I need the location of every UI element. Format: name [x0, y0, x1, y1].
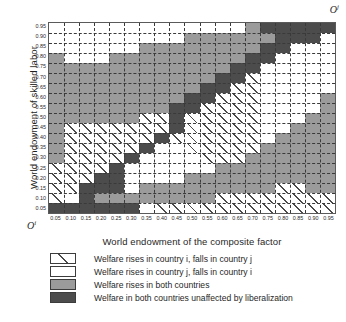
heatmap-cell [154, 63, 169, 73]
heatmap-cell [109, 133, 124, 143]
heatmap-cell [260, 163, 275, 173]
heatmap-cell [320, 133, 335, 143]
heatmap-cell [109, 113, 124, 123]
heatmap-cell [184, 113, 199, 123]
heatmap-cell [169, 193, 184, 203]
heatmap-cell [320, 103, 335, 113]
heatmap-cell [124, 193, 139, 203]
heatmap-cell [49, 173, 64, 183]
heatmap-cell [109, 33, 124, 43]
heatmap-cell [109, 83, 124, 93]
heatmap-cell [154, 113, 169, 123]
heatmap-cell [64, 113, 79, 123]
heatmap-cell [124, 113, 139, 123]
heatmap-cell [169, 103, 184, 113]
heatmap-cell [94, 133, 109, 143]
y-tick-label: 0.35 [20, 145, 46, 150]
legend-item: Welfare rises in both countries [50, 278, 340, 291]
heatmap-cell [230, 203, 245, 213]
heatmap-cell [94, 173, 109, 183]
heatmap-cell [260, 33, 275, 43]
heatmap-cell [49, 103, 64, 113]
heatmap-cell [49, 23, 64, 33]
heatmap-cell [139, 33, 154, 43]
heatmap-cell [275, 43, 290, 53]
heatmap-cell [184, 123, 199, 133]
heatmap-cell [169, 33, 184, 43]
heatmap-cell [139, 43, 154, 53]
y-tick-label: 0.55 [20, 105, 46, 110]
heatmap-cell [94, 53, 109, 63]
heatmap-cell [305, 193, 320, 203]
heatmap-cell [124, 23, 139, 33]
heatmap-cell [200, 113, 215, 123]
heatmap-cell [109, 183, 124, 193]
heatmap-cell [49, 143, 64, 153]
heatmap-cell [94, 43, 109, 53]
heatmap-cell [79, 183, 94, 193]
heatmap-cell [320, 63, 335, 73]
heatmap-cell [275, 183, 290, 193]
heatmap-cell [184, 203, 199, 213]
heatmap-cell [290, 23, 305, 33]
heatmap-cell [320, 173, 335, 183]
heatmap-cell [320, 33, 335, 43]
heatmap-cell [79, 53, 94, 63]
heatmap-cell [154, 153, 169, 163]
heatmap-cell [49, 33, 64, 43]
heatmap-cell [154, 93, 169, 103]
heatmap-cell [275, 73, 290, 83]
heatmap-cell [124, 153, 139, 163]
heatmap-cell [290, 93, 305, 103]
heatmap-cell [215, 113, 230, 123]
origin-label-j: Oj [330, 3, 339, 15]
heatmap-cell [200, 43, 215, 53]
heatmap-cell [124, 83, 139, 93]
heatmap-cell [124, 123, 139, 133]
heatmap-cell [245, 203, 260, 213]
heatmap-cell [290, 183, 305, 193]
heatmap-cell [94, 203, 109, 213]
heatmap-cell [64, 133, 79, 143]
heatmap-cell [230, 173, 245, 183]
heatmap-cell [260, 93, 275, 103]
heatmap-cell [49, 153, 64, 163]
heatmap-cell [320, 43, 335, 53]
heatmap-cell [245, 123, 260, 133]
heatmap-cell [64, 143, 79, 153]
heatmap-cell [230, 133, 245, 143]
heatmap-cell [64, 33, 79, 43]
heatmap-cell [169, 43, 184, 53]
heatmap-cell [124, 183, 139, 193]
y-tick-label: 0.50 [20, 115, 46, 120]
heatmap-cell [320, 73, 335, 83]
heatmap-cell [215, 173, 230, 183]
heatmap-cell [154, 43, 169, 53]
heatmap-cell [215, 103, 230, 113]
x-tick-label: 0.95 [317, 216, 339, 221]
heatmap-cell [230, 53, 245, 63]
heatmap-cell [245, 23, 260, 33]
heatmap-cell [154, 83, 169, 93]
heatmap-cell [305, 113, 320, 123]
y-tick-label: 0.80 [20, 54, 46, 59]
heatmap-cell [245, 53, 260, 63]
heatmap-cell [245, 73, 260, 83]
heatmap-cell [320, 113, 335, 123]
heatmap-cell [184, 23, 199, 33]
heatmap-cell [64, 83, 79, 93]
heatmap-cell [79, 33, 94, 43]
heatmap-cell [64, 73, 79, 83]
heatmap-cell [320, 123, 335, 133]
heatmap-cell [275, 173, 290, 183]
y-tick-label: 0.85 [20, 44, 46, 49]
heatmap-cell [260, 73, 275, 83]
heatmap-cell [49, 73, 64, 83]
heatmap-cell [305, 73, 320, 83]
heatmap-cell [139, 123, 154, 133]
heatmap-cell [109, 103, 124, 113]
heatmap-cell [169, 123, 184, 133]
heatmap-cell [109, 173, 124, 183]
heatmap-cell [64, 23, 79, 33]
origin-j-letter: O [330, 4, 337, 15]
